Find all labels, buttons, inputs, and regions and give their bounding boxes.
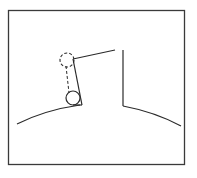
- diagram-canvas: [0, 0, 197, 178]
- frame-border: [9, 11, 185, 165]
- right-ground-arc: [123, 106, 181, 126]
- pendulum-rod-dashed: [66, 66, 69, 93]
- bob-final-position: [66, 91, 80, 105]
- bob-initial-position: [60, 53, 74, 67]
- pendulum-diagram: [0, 0, 197, 178]
- ceiling-string-line: [73, 50, 115, 59]
- pendulum-rod: [73, 59, 82, 105]
- left-ground-arc: [17, 105, 80, 124]
